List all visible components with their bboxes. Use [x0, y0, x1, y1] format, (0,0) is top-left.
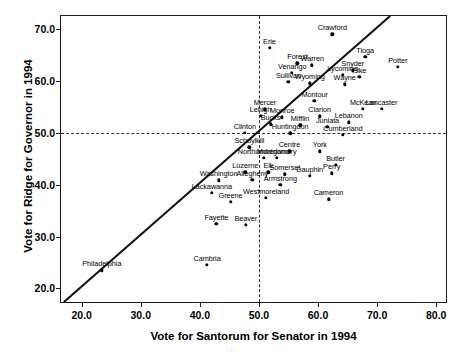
data-point-label: Cambria — [193, 255, 220, 262]
y-tick-mark — [56, 237, 61, 238]
data-point-label: Lackawanna — [192, 183, 232, 190]
x-tick-mark — [82, 302, 83, 307]
data-point-label: Philadelphia — [82, 260, 121, 267]
y-tick-label: 20.0 — [35, 282, 55, 294]
data-point-label: Venango — [278, 63, 306, 70]
data-point-label: Erie — [263, 38, 276, 45]
y-axis-title: Vote for Ridge for Governor in 1994 — [22, 36, 34, 276]
x-tick-label: 20.0 — [71, 309, 91, 321]
x-tick-label: 70.0 — [367, 309, 387, 321]
scatter-plot-figure: CrawfordErieTiogaPotterWarrenForestSnyde… — [0, 0, 468, 360]
x-tick-label: 60.0 — [308, 309, 328, 321]
data-point-label: Clarion — [308, 106, 331, 113]
data-point-label: Lycoming — [327, 65, 358, 72]
x-tick-label: 40.0 — [190, 309, 210, 321]
y-tick-mark — [56, 133, 61, 134]
data-point-label: Tioga — [356, 47, 374, 54]
plot-area: CrawfordErieTiogaPotterWarrenForestSnyde… — [60, 15, 447, 303]
data-point-label: Lancaster — [366, 99, 398, 106]
data-point-label: Wyoming — [295, 73, 325, 80]
x-tick-mark — [141, 302, 142, 307]
x-tick-mark — [200, 302, 201, 307]
data-point-label: Cumberland — [323, 125, 362, 132]
y-tick-label: 70.0 — [35, 23, 55, 35]
x-tick-mark — [436, 302, 437, 307]
data-point-label: Huntingdon — [272, 123, 309, 130]
data-point-label: Perry — [323, 163, 340, 170]
x-tick-label: 80.0 — [426, 309, 446, 321]
data-point-label: Montgomery — [257, 148, 297, 155]
y-tick-mark — [56, 288, 61, 289]
data-point-label: Lebanon — [335, 112, 363, 119]
x-tick-label: 50.0 — [249, 309, 269, 321]
data-point-label: York — [313, 141, 327, 148]
data-point-label: Fayette — [204, 214, 228, 221]
data-point-label: Dauphin — [296, 166, 323, 173]
data-point-label: Westmoreland — [243, 188, 289, 195]
data-point-label: Beaver — [234, 215, 257, 222]
data-point-label: Greene — [219, 192, 243, 199]
y-tick-mark — [56, 29, 61, 30]
data-point-label: Schuylkill — [234, 137, 264, 144]
data-point-label: Clinton — [234, 123, 256, 130]
y-tick-mark — [56, 81, 61, 82]
y-tick-label: 50.0 — [35, 127, 55, 139]
data-point-label: Crawford — [318, 24, 347, 31]
x-tick-mark — [259, 302, 260, 307]
x-tick-mark — [377, 302, 378, 307]
y-tick-mark — [56, 185, 61, 186]
data-point-label: Butler — [326, 155, 345, 162]
data-point-label: Montour — [301, 91, 327, 98]
x-tick-label: 30.0 — [131, 309, 151, 321]
data-point-label: Wayne — [334, 74, 356, 81]
data-point-label: Armstrong — [264, 175, 297, 182]
data-point-label: Forest — [287, 53, 307, 60]
data-point-label: Cameron — [314, 189, 344, 196]
data-point-label: Washington — [200, 170, 238, 177]
y-tick-label: 60.0 — [35, 75, 55, 87]
x-axis-title: Vote for Santorum for Senator in 1994 — [60, 330, 447, 342]
data-point-label: Bucks — [261, 114, 281, 121]
x-tick-mark — [318, 302, 319, 307]
y-tick-label: 30.0 — [35, 231, 55, 243]
data-point-label: Potter — [388, 57, 407, 64]
data-point-label: Lehigh — [250, 106, 272, 113]
y-tick-label: 40.0 — [35, 179, 55, 191]
